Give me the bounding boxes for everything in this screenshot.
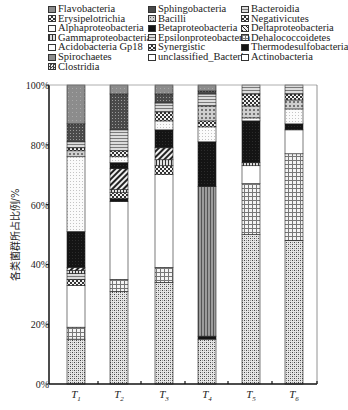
bar-segment xyxy=(285,240,303,384)
bar-segment xyxy=(242,121,260,163)
bar-segment xyxy=(67,151,85,157)
bar-segment xyxy=(155,175,173,268)
bar-segment xyxy=(67,142,85,148)
bar-segment xyxy=(110,291,128,384)
bar-segment xyxy=(67,85,85,124)
bar-segment xyxy=(198,187,216,337)
bar-segment xyxy=(155,148,173,160)
bar-segment xyxy=(67,148,85,151)
bar-segment xyxy=(110,94,128,130)
bar-segment xyxy=(198,127,216,142)
bar-segment xyxy=(110,202,128,280)
bar-segment xyxy=(110,85,128,94)
bar-t6 xyxy=(285,85,303,384)
bar-segment xyxy=(198,339,216,384)
bar-segment xyxy=(67,124,85,142)
bar-segment xyxy=(242,166,260,184)
bar-t2 xyxy=(110,85,128,384)
bar-segment xyxy=(285,100,303,109)
bar-segment xyxy=(242,163,260,166)
bar-segment xyxy=(198,106,216,121)
bar-segment xyxy=(155,160,173,166)
bar-segment xyxy=(285,124,303,130)
bar-t1 xyxy=(67,85,85,384)
bar-t4 xyxy=(198,85,216,384)
bar-segment xyxy=(110,279,128,291)
bar-segment xyxy=(285,85,303,94)
bar-segment xyxy=(110,190,128,193)
bar-segment xyxy=(110,151,128,157)
bar-segment xyxy=(285,109,303,124)
bar-segment xyxy=(155,166,173,175)
bar-segment xyxy=(242,94,260,106)
bar-segment xyxy=(67,327,85,339)
bar-segment xyxy=(198,142,216,187)
bar-segment xyxy=(67,267,85,270)
bar-segment xyxy=(155,130,173,148)
bar-segment xyxy=(110,130,128,151)
bar-segment xyxy=(198,94,216,106)
bar-segment xyxy=(110,157,128,163)
bar-segment xyxy=(110,199,128,202)
bar-segment xyxy=(242,235,260,385)
bar-segment xyxy=(155,85,173,94)
bar-t5 xyxy=(242,85,260,384)
bar-segment xyxy=(242,184,260,235)
bar-segment xyxy=(110,193,128,199)
bar-segment xyxy=(67,157,85,232)
bar-segment xyxy=(242,118,260,121)
bar-segment xyxy=(285,94,303,100)
bar-segment xyxy=(198,91,216,94)
bar-segment xyxy=(155,121,173,130)
bar-segment xyxy=(198,336,216,339)
bar-segment xyxy=(198,85,216,91)
bar-segment xyxy=(285,154,303,241)
bar-segment xyxy=(67,279,85,285)
bar-segment xyxy=(110,169,128,190)
bar-segment xyxy=(67,270,85,273)
bar-segment xyxy=(155,112,173,121)
bar-segment xyxy=(155,103,173,112)
bar-segment xyxy=(285,130,303,154)
bar-segment xyxy=(67,339,85,384)
bar-segment xyxy=(155,282,173,384)
bar-segment xyxy=(155,267,173,282)
bar-t3 xyxy=(155,85,173,384)
bar-segment xyxy=(67,232,85,268)
bar-segment xyxy=(67,285,85,327)
bar-segment xyxy=(242,85,260,94)
bar-segment xyxy=(110,163,128,169)
bar-segment xyxy=(155,94,173,103)
bar-segment xyxy=(67,273,85,279)
bar-segment xyxy=(198,121,216,127)
bar-segment xyxy=(242,106,260,118)
